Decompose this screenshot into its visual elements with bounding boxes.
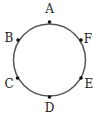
point-label-B: B	[5, 31, 14, 45]
point-A: A	[44, 2, 54, 24]
point-C: C	[4, 76, 19, 91]
point-label-E: E	[85, 77, 94, 91]
point-label-F: F	[84, 32, 92, 46]
point-dot-F	[79, 38, 83, 42]
point-dot-C	[16, 76, 20, 80]
point-D: D	[45, 95, 55, 115]
point-dot-A	[48, 20, 52, 24]
circle	[14, 24, 86, 96]
point-E: E	[79, 76, 93, 91]
point-dot-D	[48, 95, 52, 99]
point-label-C: C	[4, 77, 13, 91]
point-dot-E	[79, 76, 83, 80]
circle-diagram: A B C D E F	[0, 0, 99, 122]
point-label-A: A	[44, 2, 54, 16]
point-dot-B	[16, 38, 20, 42]
point-label-D: D	[45, 101, 55, 115]
